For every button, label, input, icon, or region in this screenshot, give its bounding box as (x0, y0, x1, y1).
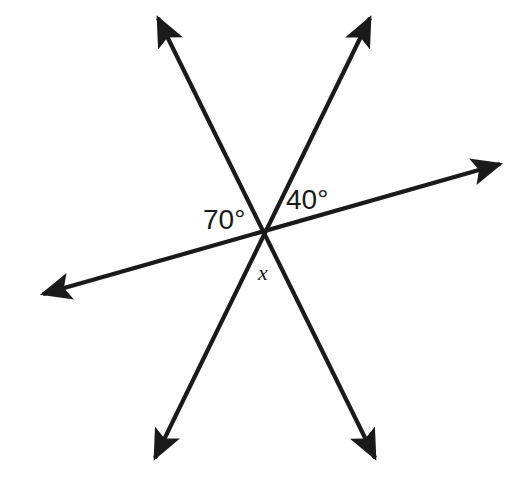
geometry-diagram: 70° 40° x (0, 0, 528, 497)
line-upper-right-to-lower-left (155, 18, 370, 458)
angle-label-70: 70° (203, 206, 245, 234)
angle-label-x: x (258, 262, 268, 284)
lines-group (43, 18, 500, 458)
angle-label-40: 40° (286, 186, 328, 214)
line-upper-left-to-lower-right (158, 18, 375, 458)
line-left-to-right (43, 164, 500, 294)
diagram-canvas (0, 0, 528, 497)
